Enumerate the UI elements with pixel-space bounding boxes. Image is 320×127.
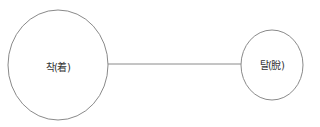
node-right-label: 탈(脫) [260, 57, 285, 72]
node-left-label: 착(着) [46, 59, 71, 74]
